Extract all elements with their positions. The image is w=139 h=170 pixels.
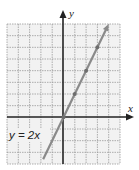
x-axis-arrow-icon bbox=[126, 114, 134, 121]
y-axis-arrow-icon bbox=[60, 10, 67, 18]
equation-label: y = 2x bbox=[8, 129, 41, 141]
data-point bbox=[84, 69, 88, 73]
coordinate-plane: x y y = 2x bbox=[0, 0, 139, 170]
data-point bbox=[95, 45, 99, 49]
data-point bbox=[62, 115, 66, 119]
data-point bbox=[73, 92, 77, 96]
x-axis-label: x bbox=[127, 102, 133, 114]
y-axis-label: y bbox=[68, 7, 74, 19]
